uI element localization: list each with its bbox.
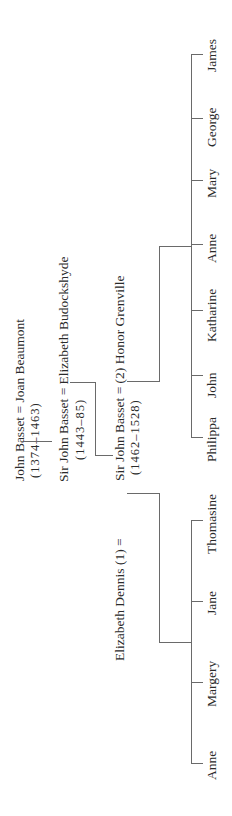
tick-john [191,375,203,376]
tick-philippa [191,437,203,438]
child-george: George [205,108,219,148]
gen3-couple-second-marriage-label: Sir John Basset = (2) Honor Grenville [113,275,127,481]
tick-jane [191,601,203,602]
child-anne-second-marriage: Anne [205,234,219,263]
connector-marriage1-in [159,642,192,643]
tick-thomasine [191,520,203,521]
gen2-dates-label: (1443–85) [73,399,87,460]
connector-marriage2-in [159,246,192,247]
gen1-couple-label: John Basset = Joan Beaumont [13,319,27,481]
child-katharine: Katharine [205,289,219,342]
child-james: James [205,39,219,72]
connector-marriage1-out [127,493,160,494]
connector-gen2-in [95,455,113,456]
tick-george [191,118,203,119]
gen2-couple-label: Sir John Basset = Elizabeth Budockshyde [57,257,71,482]
family-tree-diagram: John Basset = Joan Beaumont (1374–1463) … [0,0,232,816]
connector-gen2-out [70,382,96,383]
tick-katharine [191,310,203,311]
child-margery: Margery [205,661,219,707]
child-mary: Mary [205,169,219,198]
connector-marriage2-out [127,381,160,382]
connector-gen2-drop [95,382,96,456]
child-jane: Jane [205,591,219,615]
child-philippa: Philippa [205,417,219,462]
gen3-first-wife-label: Elizabeth Dennis (1) = [113,538,127,661]
sibling-bar-first-marriage [191,520,192,763]
tick-anne-2 [191,244,203,245]
connector-marriage2-drop [159,246,160,382]
tick-james [191,54,203,55]
child-anne-first-marriage: Anne [205,751,219,780]
connector-marriage1-drop [159,493,160,643]
tick-margery [191,682,203,683]
child-john: John [205,372,219,398]
tick-mary [191,180,203,181]
connector-gen1-gen2 [24,441,52,442]
tick-anne-1 [191,763,203,764]
gen3-dates-label: (1462–1528) [128,399,142,475]
child-thomasine: Thomasine [205,494,219,554]
sibling-bar-second-marriage [191,54,192,438]
